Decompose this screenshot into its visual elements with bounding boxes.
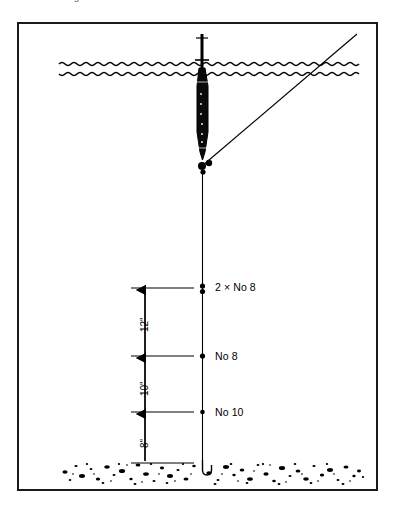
shot-label-no8: No 8 (215, 350, 238, 362)
figure-frame: 2 × No 8 No 8 No 10 12" 10" 8" (17, 22, 378, 491)
dimension-label-12in: 12" (139, 317, 150, 332)
waggler-float (195, 34, 209, 160)
shot-marker-no10 (200, 410, 205, 415)
water-surface (59, 63, 359, 76)
dimension-tick-lines (131, 288, 194, 463)
casting-line (202, 34, 357, 166)
rig-diagram (19, 24, 376, 489)
clipped-caption: …used as leading (4, 0, 204, 4)
shot-label-2x-no8: 2 × No 8 (215, 281, 256, 293)
shot-label-no10: No 10 (215, 406, 244, 418)
dimension-label-8in: 8" (139, 439, 150, 448)
shot-marker-no8 (200, 353, 205, 358)
seabed (62, 463, 364, 485)
dimension-label-10in: 10" (139, 381, 150, 396)
float-locking-shot (198, 160, 212, 175)
